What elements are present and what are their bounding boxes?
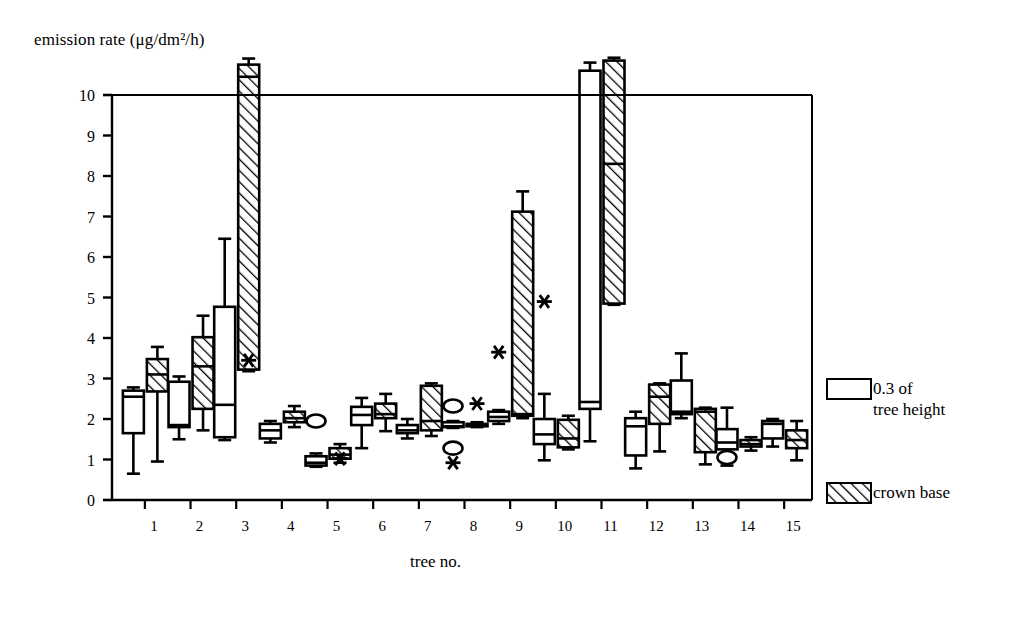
- x-tick-label: 6: [378, 518, 386, 534]
- box-plot-crown-base-10: [558, 416, 579, 450]
- box-plot-tree-height-5: [306, 415, 327, 467]
- legend-label-crown-base: crown base: [873, 482, 950, 503]
- box: [375, 404, 396, 419]
- box-plot-crown-base-4: [284, 406, 305, 427]
- y-tick-label: 10: [79, 87, 95, 104]
- x-tick-label: 1: [150, 518, 158, 534]
- y-tick-label: 3: [87, 371, 95, 388]
- box: [695, 409, 716, 452]
- box: [238, 65, 259, 370]
- box-plot-tree-height-9: [488, 346, 509, 424]
- box-plot-tree-height-15: [762, 419, 783, 447]
- box: [603, 61, 624, 304]
- extreme-marker: [470, 397, 485, 410]
- box-plot-tree-height-13: [671, 353, 692, 418]
- x-tick-label: 11: [603, 518, 617, 534]
- x-tick-label: 7: [424, 518, 432, 534]
- extreme-marker: [446, 456, 461, 469]
- x-tick-label: 5: [333, 518, 341, 534]
- y-tick-label: 5: [87, 290, 95, 307]
- box-plot-crown-base-12: [649, 383, 670, 451]
- box-plot-crown-base-6: [375, 394, 396, 431]
- box-plot-tree-height-14: [716, 408, 737, 466]
- box-plot-tree-height-2: [169, 376, 190, 439]
- x-tick-label: 13: [694, 518, 709, 534]
- box-plot-series-layer: [123, 58, 807, 474]
- box-plot-tree-height-3: [214, 239, 235, 440]
- y-tick-label: 2: [87, 411, 95, 428]
- outlier-marker: [444, 442, 463, 455]
- box-plot-tree-height-11: [579, 63, 600, 442]
- box-plot-crown-base-7: [421, 383, 442, 436]
- x-tick-label: 12: [649, 518, 664, 534]
- x-tick-label: 4: [287, 518, 295, 534]
- box-plot-crown-base-14: [740, 437, 761, 450]
- x-tick-label: 9: [515, 518, 523, 534]
- box: [534, 419, 555, 444]
- outlier-marker: [444, 400, 463, 413]
- box-plot-crown-base-3: [238, 59, 259, 372]
- box-plot-tree-height-7: [397, 419, 418, 438]
- legend-label-tree-height: 0.3 of tree height: [873, 378, 945, 420]
- box: [214, 307, 235, 437]
- legend-swatch-white: [826, 378, 872, 400]
- box-plot-crown-base-1: [147, 347, 168, 462]
- legend: 0.3 of tree height crown base: [826, 378, 1016, 504]
- box-plot-crown-base-2: [193, 316, 214, 431]
- x-tick-label: 8: [470, 518, 478, 534]
- box: [193, 337, 214, 409]
- box-plot-tree-height-8: [443, 400, 464, 470]
- box: [649, 385, 670, 424]
- y-tick-label: 4: [87, 330, 95, 347]
- x-tick-label: 14: [740, 518, 756, 534]
- x-tick-label: 3: [241, 518, 249, 534]
- y-tick-label: 9: [87, 128, 95, 145]
- legend-item-crown-base: crown base: [826, 482, 1016, 504]
- box: [306, 456, 327, 465]
- outlier-marker: [717, 451, 736, 464]
- box-plot-crown-base-15: [786, 421, 807, 460]
- y-tick-label: 1: [87, 452, 95, 469]
- x-tick-label: 10: [557, 518, 572, 534]
- box-plot-crown-base-5: [330, 444, 351, 465]
- box-plot-tree-height-12: [625, 412, 646, 469]
- y-tick-label: 7: [87, 209, 95, 226]
- box: [421, 386, 442, 431]
- box-plot-tree-height-10: [534, 295, 555, 460]
- box-plot-crown-base-8: [467, 397, 488, 427]
- box-plot-tree-height-6: [351, 398, 372, 448]
- x-tick-label: 15: [786, 518, 801, 534]
- outlier-marker: [307, 415, 326, 428]
- box: [512, 212, 533, 416]
- box-plot-crown-base-9: [512, 191, 533, 418]
- extreme-marker: [491, 346, 506, 359]
- x-axis-label: tree no.: [410, 552, 461, 572]
- box: [558, 420, 579, 448]
- box: [169, 382, 190, 427]
- x-tick-label: 2: [196, 518, 204, 534]
- y-tick-label: 6: [87, 249, 95, 266]
- box: [716, 429, 737, 449]
- legend-item-tree-height: 0.3 of tree height: [826, 378, 1016, 420]
- y-tick-label: 0: [87, 492, 95, 509]
- box-plot-crown-base-13: [695, 408, 716, 465]
- tick-label-layer: 012345678910123456789101112131415: [79, 87, 801, 534]
- box: [625, 418, 646, 455]
- box-plot-tree-height-4: [260, 421, 281, 442]
- box-plot-tree-height-1: [123, 387, 144, 473]
- legend-swatch-hatched: [826, 482, 872, 504]
- boxplot-chart: 012345678910123456789101112131415: [0, 0, 1020, 621]
- extreme-marker: [537, 295, 552, 308]
- y-tick-label: 8: [87, 168, 95, 185]
- box: [579, 71, 600, 409]
- box: [671, 381, 692, 415]
